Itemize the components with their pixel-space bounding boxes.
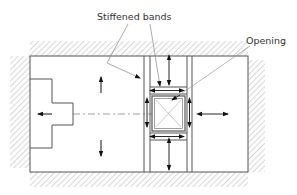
label-stiffened-bands: Stiffened bands: [97, 11, 172, 22]
right-support: [248, 60, 265, 172]
top-support: [30, 41, 248, 56]
opening: [152, 96, 185, 131]
structural-diagram: Stiffened bands Opening: [0, 0, 297, 195]
direction-arrows: [38, 59, 228, 170]
leader-lines: [107, 24, 250, 100]
label-opening: Opening: [246, 35, 286, 46]
leader-bands-1b: [107, 63, 140, 78]
left-support: [10, 56, 30, 168]
bottom-support: [30, 172, 248, 187]
